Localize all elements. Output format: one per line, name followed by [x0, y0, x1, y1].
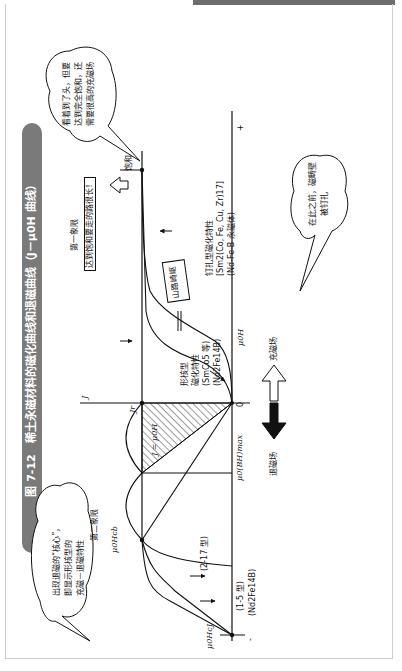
nucleation-examples: (SmCo5 等) [202, 341, 212, 386]
saturation-bubble-line-3: 需要很高的充磁场 [86, 62, 96, 126]
saturation-bubble-line-2: 达到完全饱和，还 [74, 62, 84, 126]
nucleation-examples-2: (Nd2Fe14B) [213, 339, 223, 386]
origin-label: 0 [236, 402, 246, 407]
magnetize-label: 充磁场 [269, 337, 279, 361]
first-quadrant-label: 第一象限 [70, 219, 80, 251]
pinning-bubble-line-2: 被钉扎 [320, 192, 330, 216]
bhmax-label: μ0(BH)max [235, 435, 245, 481]
type-1-5-formula: (Nd2Fe14B) [248, 569, 258, 616]
saturation-label: 饱和 [124, 155, 134, 171]
hcb-label: μ0Hcb [110, 526, 120, 553]
minus-sign: - [246, 638, 256, 641]
h-axis-label: μ0H [236, 329, 246, 346]
pinning-type-label: 钉扎型磁化特性 [205, 220, 215, 276]
type-2-17-label: (2-17 型) [200, 536, 210, 571]
plus-sign: + [236, 124, 246, 131]
type-1-5-label: (1-5 型) [236, 581, 246, 611]
j-axis-label: J [80, 396, 90, 399]
demagnetize-label: 退磁场 [269, 452, 279, 476]
nucleation-bubble-line-3: 充磁－退磁特性 [76, 540, 86, 596]
pinning-bubble-line-1: 在此之前，磁畴壁 [308, 162, 318, 226]
first-quadrant-note: 达到饱和要走的路很长！ [84, 177, 96, 271]
jr-label: Jr [128, 406, 138, 413]
j-eq-label: J = μ0H [150, 424, 160, 456]
nucleation-bubble-line-2: 即显示形核型的 [64, 540, 74, 596]
hcj-label: μ0HcJ [205, 624, 215, 649]
nucleation-type-label-2: 磁化特性 [191, 354, 201, 386]
pinning-examples-2: (Nd-Fe-B 永磁体) [227, 212, 237, 276]
rotated-figure: 图 7-12 稀土永磁材料的磁化曲线和退磁曲线（J－μ0H 曲线） [0, 0, 402, 671]
nucleation-bubble-line-1: 出现退磁的“核心”， [52, 524, 62, 596]
nucleation-type-label: 形核型 [180, 362, 190, 386]
pinning-examples: [Sm2(Co, Fe, Cu, Zr)17] [216, 181, 226, 276]
saturation-bubble-line-1: 看着到了头，但要 [62, 62, 72, 126]
second-quadrant-label: 第二象限 [90, 509, 100, 541]
